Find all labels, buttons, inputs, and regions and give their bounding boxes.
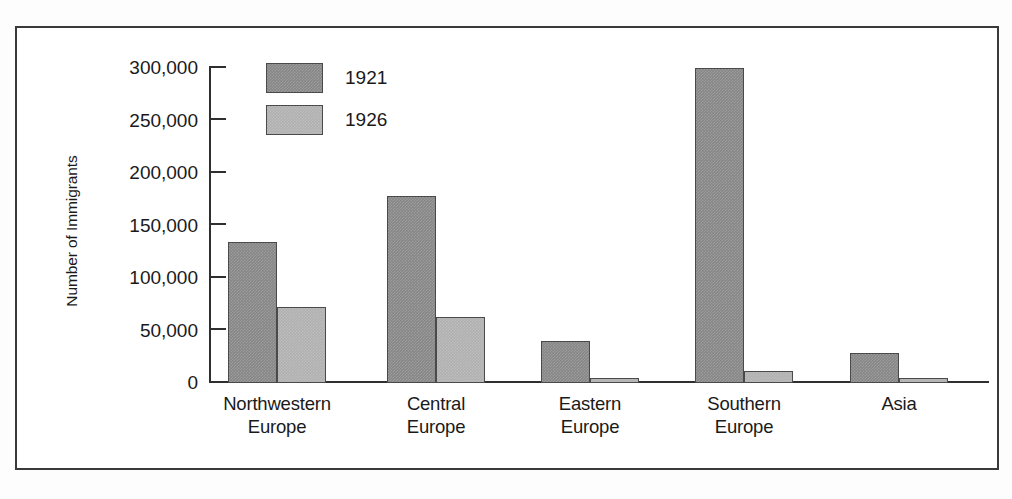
y-axis-tick	[209, 328, 226, 330]
y-axis-tick	[209, 223, 226, 225]
x-axis-category-label-central-europe: Central Europe	[351, 392, 521, 438]
bar-1921-eastern-europe	[541, 341, 590, 383]
bar-1926-southern-europe	[744, 371, 793, 383]
bar-1926-central-europe	[436, 317, 485, 383]
legend-swatch-1926	[266, 105, 323, 135]
legend-swatch-1921	[266, 63, 323, 93]
bar-1921-northwestern-europe	[228, 242, 277, 383]
bar-1921-asia	[850, 353, 899, 383]
legend-item-1921: 1921	[266, 57, 387, 99]
y-tick-label: 300,000	[98, 58, 198, 77]
y-axis-tick	[209, 171, 226, 173]
legend: 1921 1926	[266, 57, 387, 141]
legend-item-1926: 1926	[266, 99, 387, 141]
y-tick-label: 250,000	[98, 111, 198, 130]
x-axis-category-label-northwestern-europe: Northwestern Europe	[192, 392, 362, 438]
y-tick-label: 200,000	[98, 163, 198, 182]
legend-label-1926: 1926	[345, 109, 387, 131]
x-axis-category-label-southern-europe: Southern Europe	[659, 392, 829, 438]
legend-label-1921: 1921	[345, 67, 387, 89]
bar-1926-eastern-europe	[590, 378, 639, 383]
y-axis-tick	[209, 66, 226, 68]
bar-1921-southern-europe	[695, 68, 744, 383]
bar-chart-plot: Number of Immigrants 300,000 250,000 200…	[0, 0, 1012, 499]
y-axis-tick-labels: 300,000 250,000 200,000 150,000 100,000 …	[98, 0, 198, 499]
y-axis-tick	[209, 276, 226, 278]
y-tick-label: 150,000	[98, 216, 198, 235]
y-tick-label: 50,000	[98, 321, 198, 340]
bar-1921-central-europe	[387, 196, 436, 383]
y-axis-tick	[209, 118, 226, 120]
figure: Number of Immigrants 300,000 250,000 200…	[0, 0, 1012, 499]
bar-1926-asia	[899, 378, 948, 383]
y-tick-label: 0	[98, 373, 198, 392]
bar-1926-northwestern-europe	[277, 307, 326, 383]
y-axis-title: Number of Immigrants	[63, 121, 81, 341]
x-axis-category-label-eastern-europe: Eastern Europe	[505, 392, 675, 438]
x-axis-category-label-asia: Asia	[814, 392, 984, 415]
y-tick-label: 100,000	[98, 268, 198, 287]
